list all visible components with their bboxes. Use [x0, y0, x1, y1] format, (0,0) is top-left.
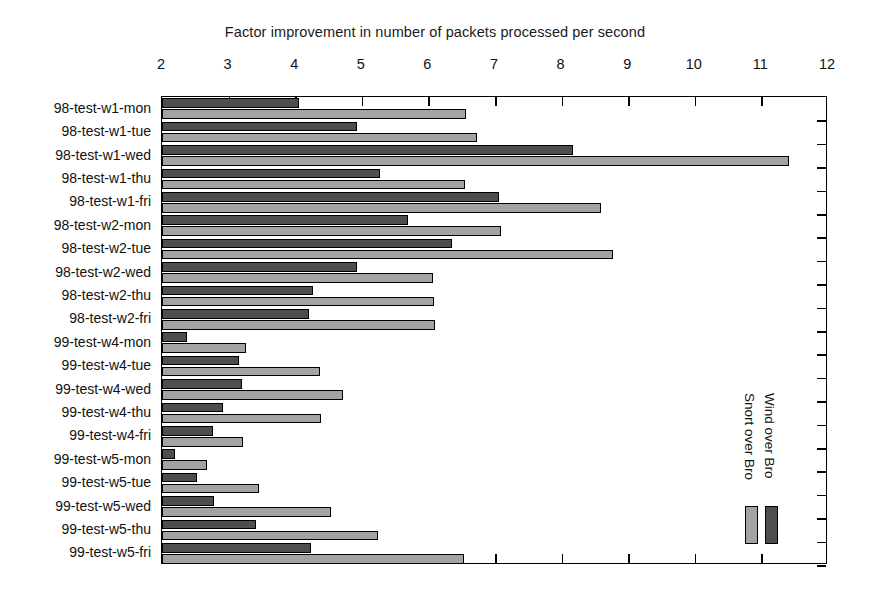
bar-wind-over-bro	[162, 543, 311, 553]
y-tick-label: 99-test-w5-wed	[55, 498, 151, 514]
legend-swatch-wind-over-bro	[765, 506, 778, 544]
legend-entry-wind-over-bro: Wind over Bro	[762, 392, 798, 544]
bar-snort-over-bro	[162, 531, 378, 541]
y-tick-label: 99-test-w4-tue	[62, 357, 151, 373]
bar-snort-over-bro	[162, 367, 320, 377]
y-axis-category-labels: 98-test-w1-mon98-test-w1-tue98-test-w1-w…	[0, 96, 155, 564]
bar-snort-over-bro	[162, 437, 243, 447]
chart-legend: Snort over Bro Wind over Bro	[742, 392, 822, 544]
y-tick-label: 99-test-w4-fri	[69, 427, 151, 443]
bar-snort-over-bro	[162, 484, 259, 494]
y-tick-mark	[817, 565, 826, 567]
bar-row	[162, 191, 826, 214]
bar-snort-over-bro	[162, 460, 207, 470]
bar-row	[162, 308, 826, 331]
y-tick-label: 98-test-w1-fri	[69, 193, 151, 209]
bar-snort-over-bro	[162, 180, 465, 190]
bar-snort-over-bro	[162, 343, 246, 353]
bar-wind-over-bro	[162, 169, 380, 179]
bar-row	[162, 97, 826, 120]
chart-title: Factor improvement in number of packets …	[0, 24, 870, 40]
y-tick-label: 98-test-w2-mon	[54, 217, 151, 233]
bar-wind-over-bro	[162, 426, 213, 436]
y-tick-label: 99-test-w4-wed	[55, 381, 151, 397]
bar-row	[162, 214, 826, 237]
bar-row	[162, 471, 826, 494]
bar-wind-over-bro	[162, 309, 309, 319]
bar-row	[162, 378, 826, 401]
y-tick-label: 98-test-w2-tue	[62, 240, 151, 256]
bar-row	[162, 167, 826, 190]
legend-label-snort-over-bro: Snort over Bro	[742, 392, 757, 511]
bar-wind-over-bro	[162, 239, 452, 249]
bar-wind-over-bro	[162, 145, 573, 155]
x-tick-label: 4	[290, 56, 298, 72]
y-tick-label: 98-test-w1-thu	[62, 170, 151, 186]
x-tick-label: 9	[623, 56, 631, 72]
bar-snort-over-bro	[162, 250, 613, 260]
bar-wind-over-bro	[162, 520, 256, 530]
y-tick-label: 98-test-w1-wed	[55, 147, 151, 163]
bar-wind-over-bro	[162, 192, 499, 202]
chart-figure: Factor improvement in number of packets …	[0, 0, 870, 608]
x-tick-label: 10	[686, 56, 702, 72]
bar-row	[162, 354, 826, 377]
bar-wind-over-bro	[162, 262, 357, 272]
bar-snort-over-bro	[162, 203, 601, 213]
bar-wind-over-bro	[162, 473, 197, 483]
bar-row	[162, 284, 826, 307]
x-tick-label: 3	[224, 56, 232, 72]
y-tick-label: 99-test-w4-mon	[54, 334, 151, 350]
y-tick-label: 99-test-w5-thu	[62, 521, 151, 537]
bar-row	[162, 237, 826, 260]
bar-wind-over-bro	[162, 286, 313, 296]
bar-snort-over-bro	[162, 109, 466, 119]
x-tick-label: 2	[157, 56, 165, 72]
x-tick-label: 5	[357, 56, 365, 72]
y-tick-label: 98-test-w1-tue	[62, 123, 151, 139]
bar-snort-over-bro	[162, 297, 434, 307]
x-tick-label: 12	[819, 56, 835, 72]
bar-snort-over-bro	[162, 133, 477, 143]
bar-row	[162, 518, 826, 541]
bar-wind-over-bro	[162, 215, 408, 225]
x-tick-label: 8	[557, 56, 565, 72]
bar-snort-over-bro	[162, 273, 433, 283]
y-tick-label: 98-test-w2-fri	[69, 310, 151, 326]
y-tick-label: 98-test-w2-thu	[62, 287, 151, 303]
bar-wind-over-bro	[162, 403, 223, 413]
bar-row	[162, 542, 826, 565]
plot-area	[161, 96, 827, 564]
bar-row	[162, 331, 826, 354]
bar-rows	[162, 97, 826, 563]
bar-wind-over-bro	[162, 379, 242, 389]
bar-row	[162, 144, 826, 167]
bar-wind-over-bro	[162, 98, 299, 108]
bar-wind-over-bro	[162, 496, 214, 506]
bar-snort-over-bro	[162, 156, 789, 166]
y-tick-label: 99-test-w5-tue	[62, 474, 151, 490]
bar-row	[162, 495, 826, 518]
bar-row	[162, 401, 826, 424]
bar-row	[162, 425, 826, 448]
y-tick-label: 98-test-w2-wed	[55, 264, 151, 280]
y-tick-label: 98-test-w1-mon	[54, 100, 151, 116]
bar-snort-over-bro	[162, 390, 343, 400]
y-tick-label: 99-test-w4-thu	[62, 404, 151, 420]
bar-snort-over-bro	[162, 507, 331, 517]
bar-row	[162, 261, 826, 284]
legend-label-wind-over-bro: Wind over Bro	[762, 392, 777, 511]
legend-swatch-snort-over-bro	[745, 506, 758, 544]
bar-row	[162, 120, 826, 143]
x-tick-label: 7	[490, 56, 498, 72]
x-tick-label: 6	[423, 56, 431, 72]
bar-snort-over-bro	[162, 414, 321, 424]
bar-snort-over-bro	[162, 226, 501, 236]
bar-snort-over-bro	[162, 554, 464, 564]
y-tick-label: 99-test-w5-mon	[54, 451, 151, 467]
bar-wind-over-bro	[162, 332, 187, 342]
x-tick-label: 11	[753, 56, 768, 72]
y-tick-label: 99-test-w5-fri	[69, 544, 151, 560]
bar-snort-over-bro	[162, 320, 435, 330]
bar-wind-over-bro	[162, 122, 357, 132]
